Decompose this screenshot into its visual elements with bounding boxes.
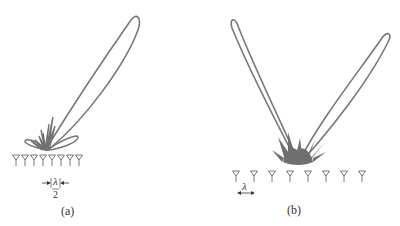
main-lobe xyxy=(46,16,139,150)
minor-lobes-cluster xyxy=(272,132,326,165)
spacing-lambda-label: λ xyxy=(242,180,247,192)
grating-lobe-right xyxy=(300,34,390,160)
antenna-icon xyxy=(323,171,330,182)
antenna-icon xyxy=(13,155,20,166)
antenna-icon xyxy=(58,155,65,166)
antenna-icon xyxy=(359,171,366,182)
spacing-denominator-label: 2 xyxy=(53,189,58,200)
antenna-icon xyxy=(22,155,29,166)
antenna-icon xyxy=(287,171,294,182)
panel-a-radiation-pattern xyxy=(25,16,140,150)
panel-b-antenna-array xyxy=(233,171,366,182)
antenna-icon xyxy=(49,155,56,166)
antenna-icon xyxy=(341,171,348,182)
antenna-icon xyxy=(31,155,38,166)
antenna-icon xyxy=(269,171,276,182)
spacing-lambda-label: λ xyxy=(53,175,58,187)
caption-a: (a) xyxy=(61,204,74,219)
antenna-icon xyxy=(251,171,258,182)
panel-b-radiation-pattern xyxy=(231,20,390,165)
figure-canvas xyxy=(0,0,400,226)
main-lobe-left xyxy=(231,20,298,160)
antenna-icon xyxy=(233,171,240,182)
panel-a-antenna-array xyxy=(13,155,83,166)
minor-lobes xyxy=(31,117,55,150)
antenna-icon xyxy=(305,171,312,182)
antenna-icon xyxy=(67,155,74,166)
caption-b: (b) xyxy=(287,203,301,218)
antenna-icon xyxy=(76,155,83,166)
antenna-icon xyxy=(40,155,47,166)
